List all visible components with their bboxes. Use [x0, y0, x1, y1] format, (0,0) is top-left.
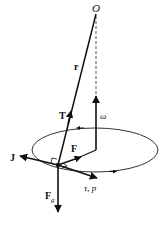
label-F: F — [71, 143, 77, 154]
angular-momentum-vector-J — [20, 156, 58, 165]
label-tau-p: τ, p — [84, 183, 97, 193]
label-J: J — [10, 152, 15, 163]
right-angle-marker — [51, 158, 57, 163]
label-r: r — [74, 61, 79, 72]
label-origin: O — [92, 2, 100, 14]
net-force-vector-F — [58, 157, 81, 165]
label-tension: T — [59, 110, 66, 121]
radius-to-axis-line — [80, 150, 96, 157]
label-gravity: Fg — [45, 190, 55, 204]
pendulum-bob — [56, 163, 60, 167]
conical-pendulum-diagram: O r T ω J F τ, p Fg — [0, 0, 166, 226]
label-omega: ω — [100, 111, 106, 121]
